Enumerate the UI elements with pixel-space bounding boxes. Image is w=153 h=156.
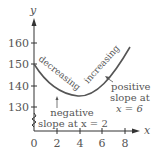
y-tick-160: 160 — [8, 37, 29, 50]
positive-slope-label: slope at — [110, 92, 150, 103]
increasing-label: increasing — [82, 43, 122, 85]
x-axis-arrow-icon — [132, 129, 140, 134]
x-tick-8: 8 — [122, 137, 129, 150]
chart: y x 160 150 140 130 0 2 4 6 8 decreasing… — [0, 0, 153, 156]
y-tick-130: 130 — [8, 101, 29, 114]
x-tick-6: 6 — [99, 137, 106, 150]
negative-label: negative — [50, 107, 94, 118]
x-tick-2: 2 — [54, 137, 61, 150]
positive-label: positive — [111, 81, 151, 92]
y-axis-label: y — [29, 4, 37, 17]
positive-x-label: x = 6 — [116, 103, 143, 114]
y-tick-140: 140 — [8, 80, 29, 93]
decreasing-label: decreasing — [37, 54, 83, 93]
y-tick-150: 150 — [8, 58, 29, 71]
y-axis-arrow-icon — [32, 18, 37, 26]
x-axis-label: x — [144, 124, 151, 137]
neg-arrow-head-icon — [56, 96, 59, 100]
x-tick-4: 4 — [77, 137, 84, 150]
negative-slope-label: slope at x = 2 — [38, 118, 108, 129]
x-tick-0: 0 — [31, 137, 38, 150]
